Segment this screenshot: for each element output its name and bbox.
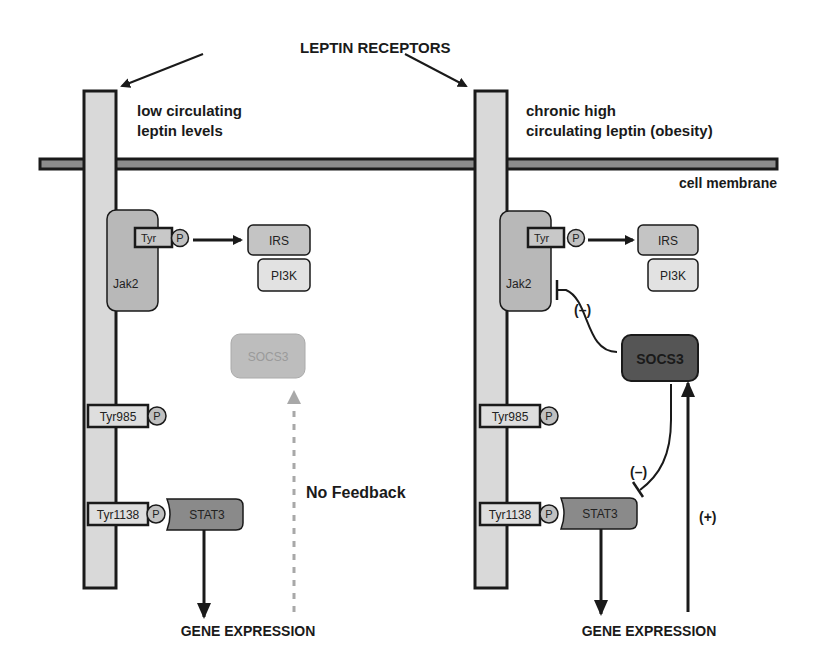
socs3-label-inactive: SOCS3 (248, 350, 289, 364)
pi3k-label: PI3K (271, 269, 297, 283)
gene-expression-label: GENE EXPRESSION (582, 623, 717, 639)
condition-label-line2: circulating leptin (obesity) (526, 122, 713, 139)
condition-label-line2: leptin levels (137, 122, 223, 139)
tyr1138-label: Tyr1138 (489, 508, 532, 522)
tyr1138-label: Tyr1138 (97, 508, 140, 522)
leptin-signaling-diagram: LEPTIN RECEPTORS cell membrane low circu… (0, 0, 818, 663)
phospho-label: P (572, 232, 579, 244)
phospho-label-985: P (153, 410, 160, 422)
inhibit-stat3-label: (–) (630, 464, 647, 480)
cell-membrane-label: cell membrane (679, 175, 777, 191)
inhibition-line-jak2 (557, 290, 617, 352)
stat3-label: STAT3 (582, 507, 618, 521)
phospho-label: P (176, 232, 183, 244)
jak2-label: Jak2 (506, 277, 532, 291)
right-panel-high-leptin: chronic high circulating leptin (obesity… (475, 91, 717, 639)
inhibit-jak2-label: (–) (574, 302, 591, 318)
phospho-label-1138: P (545, 508, 552, 520)
pointer-arrow-left-receptor (122, 54, 203, 86)
jak2-label: Jak2 (113, 277, 139, 291)
activate-label: (+) (699, 509, 717, 525)
phospho-label-985: P (545, 410, 552, 422)
condition-label-line1: chronic high (526, 102, 616, 119)
left-panel-low-leptin: low circulating leptin levels Jak2 Tyr P… (84, 91, 406, 639)
stat3-label: STAT3 (189, 508, 225, 522)
irs-label: IRS (658, 234, 678, 248)
tyr-label: Tyr (141, 232, 157, 244)
cell-membrane (40, 159, 777, 169)
tyr-label: Tyr (534, 232, 550, 244)
tyr985-label: Tyr985 (492, 410, 529, 424)
gene-expression-label: GENE EXPRESSION (181, 623, 316, 639)
jak2-box (500, 211, 551, 311)
jak2-box (107, 210, 158, 311)
no-feedback-label: No Feedback (306, 484, 406, 501)
phospho-label-1138: P (152, 508, 159, 520)
socs3-label-active: SOCS3 (636, 351, 684, 367)
pi3k-label: PI3K (660, 269, 686, 283)
tyr985-label: Tyr985 (100, 410, 137, 424)
pointer-arrow-right-receptor (405, 54, 466, 86)
condition-label-line1: low circulating (137, 102, 242, 119)
leptin-receptors-title: LEPTIN RECEPTORS (300, 39, 451, 56)
irs-label: IRS (269, 234, 289, 248)
